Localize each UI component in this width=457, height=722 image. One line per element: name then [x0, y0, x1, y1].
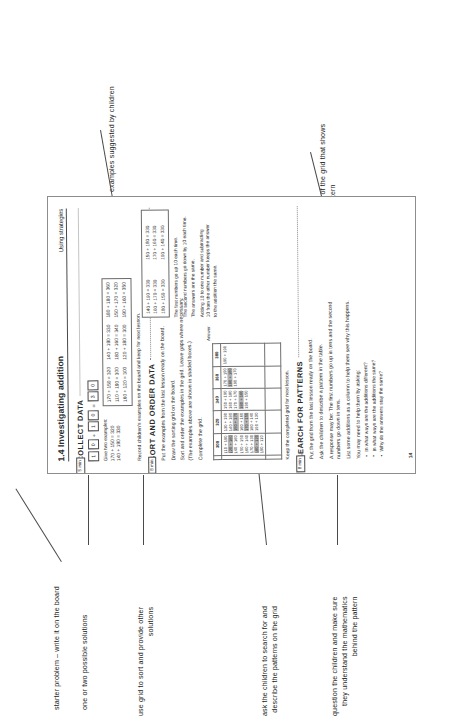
grid-table: 300 320 340 360 380 110 + 190120 + 18014…	[212, 343, 282, 460]
leader-line-search-patterns	[258, 473, 267, 545]
example-item: 110 + 190 = 300	[114, 367, 121, 402]
number-sentence: 1 0 + 1 0 = 3 0	[86, 208, 99, 461]
grid-cell: 130 + 190140 + 180150 + 170160 + 160170 …	[221, 411, 265, 434]
equals-sign: =	[90, 403, 96, 408]
sentence-cell: 1	[88, 421, 99, 431]
leader-line-use-grid	[143, 475, 144, 545]
grid-row-spacer	[266, 455, 282, 459]
grid-entry: 180 + 160	[238, 390, 243, 408]
grid-cell-blank	[265, 433, 281, 455]
example-item: 120 + 180 = 300	[122, 324, 129, 359]
example-answers-box: 170 + 150 = 320 140 + 190 = 330 180 + 18…	[101, 278, 132, 406]
annotation-possible-solutions: one or two possible solutions	[80, 615, 90, 710]
sentence-cell: 3	[88, 392, 99, 402]
timing-badge-collect-data: 5 min	[76, 457, 85, 473]
sentence-cell: 0	[87, 380, 98, 390]
grid-entry: 190 + 130	[254, 413, 259, 431]
grid-entry: 160 + 160	[238, 413, 243, 431]
sort-closing: Keep the completed grid for next lesson.	[282, 206, 291, 459]
grid-cell-blank	[265, 410, 281, 432]
grid-cell-blank	[265, 343, 281, 365]
grid-cell-blank	[265, 366, 281, 388]
grid-cell-blank	[265, 388, 281, 410]
grid-row-spacer	[222, 455, 266, 459]
heading-collect-data: COLLECT DATA	[76, 400, 86, 462]
example-item: 180 + 180 = 360	[105, 282, 112, 317]
bullet-item: Why do the answers stay the same?	[376, 206, 385, 452]
grid-col-header: 360	[213, 366, 221, 388]
grid-entry: 140 + 160	[233, 435, 238, 453]
grid-row	[265, 343, 282, 459]
timing-badge-search-patterns: 8 min	[296, 455, 305, 472]
page-title: 1.4 Investigating addition	[55, 356, 66, 462]
page-header: 1.4 Investigating addition Using strateg…	[54, 209, 69, 462]
pattern-explanation-panel: 140 + 190 = 330 150 + 180 = 330 160 + 17…	[141, 209, 222, 318]
pattern-column-box: 140 + 190 = 330 150 + 180 = 330 160 + 17…	[141, 210, 170, 318]
example-item: 180 + 160 = 340	[114, 324, 121, 359]
heading-rule	[76, 208, 80, 395]
annotation-search-describe-patterns: ask the children to search for and descr…	[260, 606, 280, 716]
grid-entry: 150 + 150	[238, 435, 243, 453]
page-strand-label: Using strategies	[57, 209, 64, 253]
grid-cell: 150 + 190160 + 180170 + 170180 + 160190 …	[221, 388, 265, 411]
annotation-question-children: question the children and make sure they…	[330, 596, 360, 716]
grid-entry: 190 + 170	[233, 368, 238, 386]
section-collect-data: 5 min COLLECT DATA 1 0 + 1 0 = 3 0 Give …	[74, 208, 143, 462]
grid-cell: 170 + 190180 + 180190 + 170	[221, 366, 265, 389]
grid-entry: 190 + 150	[243, 390, 248, 408]
pattern-text: The second numbers go down by 10 each ti…	[181, 209, 189, 317]
grid-col-header: 380	[213, 344, 221, 366]
annotation-use-grid-sort: use grid to sort and provide other solut…	[136, 607, 156, 716]
grid-col-header: 340	[213, 389, 221, 411]
leader-line-question-children	[337, 475, 338, 545]
pattern-row: 180 + 150 = 330	[160, 268, 166, 314]
pattern-row: 170 + 160 = 330	[152, 214, 158, 260]
search-line: Put the grid from the last lesson ready …	[306, 206, 316, 459]
grid-col-header: 300	[214, 433, 222, 455]
grid-cell: 190 + 190	[221, 344, 265, 367]
grid-entry: 150 + 170	[233, 413, 238, 431]
timing-badge-sort-order: 8 min	[148, 456, 157, 473]
example-item: 150 + 170 = 320	[113, 282, 120, 317]
example-item: 140 + 190 = 330	[105, 325, 112, 360]
grid-col-header: 320	[213, 411, 221, 433]
annotation-starter-problem: starter problem – write it on the board	[52, 586, 62, 710]
grid-row: 110 + 190120 + 180140 + 160150 + 150160 …	[221, 344, 266, 460]
search-line: List some additions as a column to help …	[343, 206, 353, 459]
grid-cell: 110 + 190120 + 180140 + 160150 + 150160 …	[222, 433, 266, 456]
search-line: Ask the children to describe a pattern i…	[316, 206, 326, 459]
pattern-row: 190 + 140 = 330	[159, 214, 165, 260]
pattern-row: 150 + 180 = 330	[144, 214, 150, 260]
example-item: 190 + 160 = 350	[121, 282, 128, 317]
search-line: numbers go down in tens.	[333, 206, 343, 459]
grid-entry: 190 + 190	[222, 346, 227, 364]
plus-sign: +	[90, 433, 96, 438]
page-number: 14	[407, 453, 413, 459]
leader-line-starter	[15, 489, 61, 562]
leader-line-solutions	[88, 475, 89, 545]
sentence-cell: 0	[88, 440, 99, 450]
pattern-text: The answers are the same.	[190, 209, 198, 317]
question-bullets: In what ways are the additions different…	[361, 206, 385, 452]
pattern-text: 10 from the other number keeps the answe…	[205, 209, 213, 317]
pattern-row: 140 + 190 = 330	[145, 268, 151, 314]
pattern-row: 160 + 170 = 330	[152, 268, 158, 314]
example-item: 160 + 120 = 300	[122, 367, 129, 402]
grid-entry: 170 + 170	[233, 390, 238, 408]
examples-prompt: Give two examples: 170 + 150 = 320 140 +…	[103, 415, 123, 461]
heading-search-for-patterns: SEARCH FOR PATTERNS	[295, 361, 305, 459]
sentence-cell: 1	[88, 451, 99, 461]
heading-rule	[296, 206, 299, 357]
scanned-textbook-page: 1.4 Investigating addition Using strateg…	[47, 196, 416, 474]
sentence-cell: 0	[88, 410, 99, 420]
grid-col-header	[214, 456, 222, 460]
section-search-for-patterns: 8 min SEARCH FOR PATTERNS Put the grid f…	[294, 206, 386, 460]
grid-entry: 190 + 110	[259, 435, 264, 453]
pattern-text: to the addition the same.	[212, 209, 220, 317]
pattern-text: The first numbers go up 10 each time.	[173, 209, 181, 317]
heading-sort-and-order-data: SORT AND ORDER DATA	[147, 364, 157, 461]
example-item: 170 + 150 = 320	[106, 367, 113, 402]
